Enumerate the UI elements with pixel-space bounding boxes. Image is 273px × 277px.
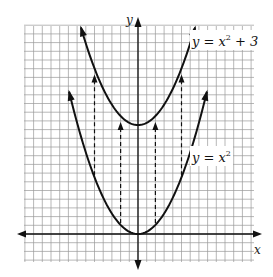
- lower-parabola-label: y = x2: [190, 146, 233, 166]
- upper-parabola-label: y = x2 + 3: [190, 30, 260, 50]
- y-axis-label: y: [126, 14, 133, 26]
- x-axis-label: x: [254, 244, 261, 256]
- graph-figure: y x y = x2 + 3 y = x2: [0, 0, 273, 277]
- grid-lines: [24, 25, 254, 262]
